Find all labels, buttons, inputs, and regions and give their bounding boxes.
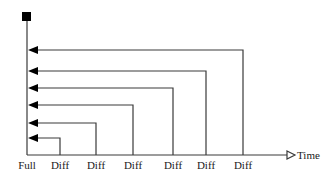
diff-label: Diff xyxy=(51,159,69,171)
diff-backup-connector: Diff xyxy=(28,101,142,171)
time-label: Time xyxy=(297,149,320,161)
connector-line xyxy=(36,138,60,155)
arrowhead-left-icon xyxy=(28,84,38,92)
diff-label: Diff xyxy=(164,159,182,171)
diff-label: Diff xyxy=(87,159,105,171)
arrowhead-left-icon xyxy=(28,101,38,109)
time-arrow-icon xyxy=(287,151,295,159)
connector-line xyxy=(36,105,133,155)
diff-backup-connector: Diff xyxy=(28,84,182,171)
diff-label: Diff xyxy=(197,159,215,171)
arrowhead-left-icon xyxy=(28,119,38,127)
full-backup-marker-icon xyxy=(22,12,31,21)
arrowhead-left-icon xyxy=(28,134,38,142)
full-label: Full xyxy=(18,159,36,171)
arrowhead-left-icon xyxy=(28,46,38,54)
connector-line xyxy=(36,88,173,155)
backup-diagram: DiffDiffDiffDiffDiffDiff Full Time xyxy=(0,0,334,179)
connector-line xyxy=(36,50,243,155)
arrowhead-left-icon xyxy=(28,67,38,75)
diff-backup-connector: Diff xyxy=(28,46,252,171)
diff-backups: DiffDiffDiffDiffDiffDiff xyxy=(28,46,252,171)
connector-line xyxy=(36,123,96,155)
connector-line xyxy=(36,71,206,155)
diff-label: Diff xyxy=(234,159,252,171)
diff-label: Diff xyxy=(124,159,142,171)
